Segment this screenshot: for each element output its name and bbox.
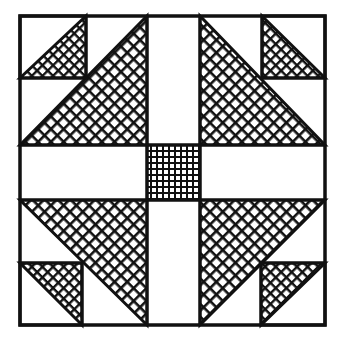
quilt-block-drawing [0,0,342,343]
small-triangle-bottom-left [20,263,82,325]
small-triangle-bottom-right [261,263,325,325]
small-triangle-top-right [262,16,325,78]
hatched-fills [20,16,325,325]
small-triangle-top-left [20,16,86,78]
center-square [147,145,200,200]
